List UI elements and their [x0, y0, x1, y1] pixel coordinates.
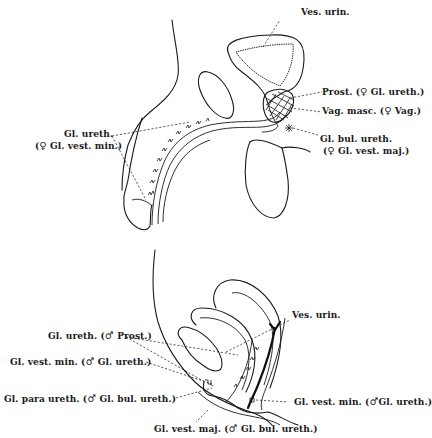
- prostate-gland: [263, 89, 294, 122]
- male-urethra-upper: [152, 112, 280, 225]
- paraurethral-glands: [205, 380, 213, 386]
- perineum-line: [250, 140, 282, 148]
- leader-gl-vest-min-right: [256, 400, 288, 402]
- label-gl-bul-ureth-homolog: (♀ Gl. vest. maj.): [323, 146, 409, 156]
- leader-gl-ureth-male-a: [112, 122, 190, 136]
- male-symbol-icon: ♂: [229, 423, 238, 434]
- label-ves-urin-female: Ves. urin.: [292, 310, 341, 320]
- penis-outline: [124, 118, 152, 230]
- female-symbol-icon: ♀: [360, 86, 367, 97]
- label-gl-vest-maj: Gl. vest. maj. (♂ Gl. bul. ureth.): [154, 424, 317, 434]
- label-ves-urin-male: Ves. urin.: [301, 7, 350, 17]
- female-symbol-icon: ♀: [384, 105, 391, 116]
- testis: [245, 142, 310, 218]
- bladder-inner: [236, 44, 293, 86]
- female-symbol-icon: ♀: [39, 140, 46, 151]
- label-gl-vest-min-right: Gl. vest. min. (♂Gl. ureth.): [294, 397, 432, 407]
- female-bladder-inner: [200, 318, 249, 390]
- male-symbol-icon: ♂: [105, 330, 114, 341]
- male-symbol-icon: ♂: [87, 393, 96, 404]
- male-section: [112, 20, 322, 230]
- label-prost: Prost. (♀ Gl. ureth.): [322, 87, 424, 97]
- label-gl-ureth-male: Gl. ureth.: [64, 129, 113, 139]
- label-vag-masc-name: Vag. masc.: [322, 106, 377, 116]
- label-vag-masc-homolog: Vag.: [395, 106, 417, 116]
- female-symbol-icon: ♀: [327, 145, 334, 156]
- label-vag-masc: Vag. masc. (♀ Vag.): [322, 106, 421, 116]
- male-symbol-icon: ♂: [369, 396, 378, 407]
- label-gl-bul-ureth: Gl. bul. ureth.: [320, 134, 392, 144]
- leader-ves-urin-male: [263, 20, 280, 47]
- leader-gl-vest-maj: [196, 410, 208, 422]
- male-symbol-icon: ♂: [85, 356, 94, 367]
- label-gl-para-ureth: Gl. para ureth. (♂ Gl. bul. ureth.): [4, 394, 176, 404]
- leader-vag-masc: [290, 108, 322, 112]
- female-oval: [178, 327, 222, 371]
- leader-gl-bul-ureth: [293, 128, 318, 135]
- label-prost-name: Prost.: [322, 87, 352, 97]
- corpus-outer: [163, 140, 210, 222]
- leader-prost: [290, 92, 322, 98]
- label-gl-bul-ureth-name: Gl. bul. ureth.: [320, 134, 392, 144]
- label-gl-ureth-male-name: Gl. ureth.: [64, 129, 113, 139]
- label-prost-homolog: Gl. ureth.: [371, 87, 420, 97]
- label-gl-ureth-female: Gl. ureth. (♂ Prost.): [48, 331, 152, 341]
- label-gl-vest-min-left: Gl. vest. min. (♂ Gl. ureth.): [10, 357, 151, 367]
- label-gl-ureth-male-homolog: (♀ Gl. vest. min.): [35, 141, 122, 151]
- bulbourethral-gland: [285, 124, 293, 132]
- glans-inner: [132, 199, 152, 206]
- seminal-oval: [198, 72, 233, 119]
